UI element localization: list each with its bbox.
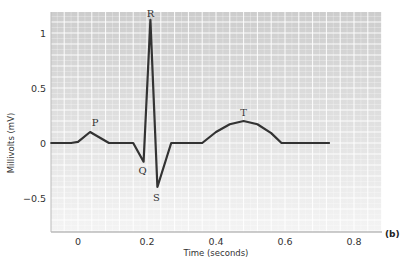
panel-label: (b) bbox=[385, 229, 400, 239]
y-axis-label: Millivolts (mV) bbox=[6, 113, 16, 174]
y-tick-label: 1 bbox=[40, 28, 46, 39]
ecg-chart: 00.20.40.60.8 10.50−0.5 PQRST Time (seco… bbox=[0, 0, 403, 262]
x-tick-label: 0.4 bbox=[208, 236, 223, 247]
y-tick-label: −0.5 bbox=[23, 193, 46, 204]
y-tick-label: 0.5 bbox=[31, 83, 46, 94]
x-tick-label: 0.8 bbox=[346, 236, 361, 247]
x-tick-label: 0 bbox=[75, 236, 81, 247]
x-axis-label: Time (seconds) bbox=[183, 248, 249, 258]
x-tick-labels: 00.20.40.60.8 bbox=[75, 236, 362, 247]
y-tick-labels: 10.50−0.5 bbox=[23, 28, 46, 204]
wave-label-q: Q bbox=[138, 165, 146, 176]
x-tick-label: 0.2 bbox=[139, 236, 154, 247]
wave-label-t: T bbox=[240, 107, 247, 118]
wave-label-p: P bbox=[92, 117, 99, 128]
y-tick-label: 0 bbox=[40, 138, 46, 149]
wave-label-s: S bbox=[153, 192, 160, 203]
x-tick-label: 0.6 bbox=[277, 236, 292, 247]
wave-label-r: R bbox=[147, 8, 155, 19]
